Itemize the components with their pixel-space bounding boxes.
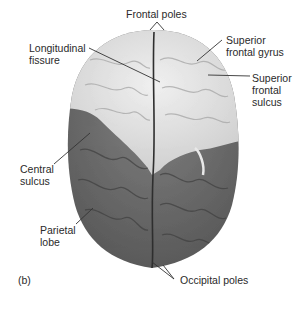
brain-shape [60,25,250,275]
label-longitudinal-fissure: Longitudinal fissure [29,42,86,66]
panel-label: (b) [18,274,31,286]
label-parietal-lobe: Parietal lobe [40,224,76,248]
label-superior-frontal-sulcus: Superior frontal sulcus [252,72,292,108]
label-frontal-poles: Frontal poles [126,8,187,20]
label-central-sulcus: Central sulcus [20,163,54,187]
label-superior-frontal-gyrus: Superior frontal gyrus [226,34,284,58]
label-occipital-poles: Occipital poles [180,274,248,286]
